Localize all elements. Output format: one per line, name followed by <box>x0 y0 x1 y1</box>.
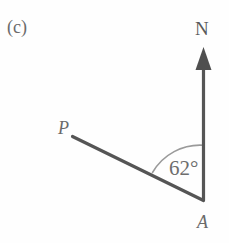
label-vertex-a: A <box>197 213 208 231</box>
label-north: N <box>195 19 209 38</box>
label-point-p: P <box>58 119 69 137</box>
label-angle-measure: 62° <box>169 158 198 179</box>
part-label: (c) <box>7 18 27 36</box>
figure-canvas: (c) N P A 62° <box>0 0 229 243</box>
north-arrowhead-icon <box>196 47 212 70</box>
